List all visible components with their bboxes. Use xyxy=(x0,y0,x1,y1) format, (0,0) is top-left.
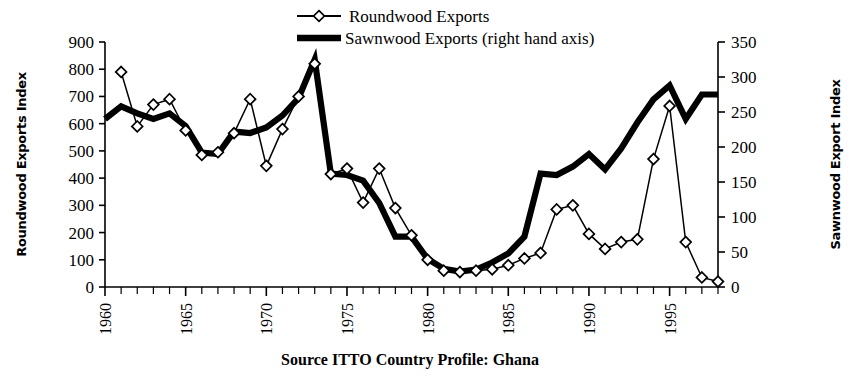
right-axis-tick-label: 100 xyxy=(731,208,757,227)
roundwood-data-point xyxy=(132,121,143,132)
left-axis-title: Roundwood Exports Index xyxy=(14,71,29,256)
left-axis-tick-label: 0 xyxy=(86,278,95,297)
x-axis-tick-label: 1985 xyxy=(500,303,517,335)
roundwood-data-point xyxy=(116,67,127,78)
roundwood-exports-line xyxy=(121,64,718,282)
left-axis-tick-label: 500 xyxy=(69,142,95,161)
roundwood-data-point xyxy=(648,154,659,165)
roundwood-data-point xyxy=(325,169,336,180)
x-axis-tick-label: 1965 xyxy=(178,303,195,335)
x-axis-ticks: 19601965197019751980198519901995 xyxy=(97,287,718,335)
right-axis-tick-label: 300 xyxy=(731,68,757,87)
roundwood-data-point xyxy=(277,124,288,135)
x-axis-tick-label: 1975 xyxy=(339,303,356,335)
roundwood-data-point xyxy=(358,197,369,208)
right-axis-tick-label: 50 xyxy=(731,243,748,262)
roundwood-data-point xyxy=(390,203,401,214)
legend: Roundwood ExportsSawnwood Exports (right… xyxy=(297,7,594,48)
legend-label-sawnwood: Sawnwood Exports (right hand axis) xyxy=(345,29,594,48)
x-axis-tick-label: 1990 xyxy=(581,303,598,335)
roundwood-data-point xyxy=(164,94,175,105)
roundwood-data-point xyxy=(632,234,643,245)
roundwood-data-point xyxy=(245,94,256,105)
roundwood-data-point xyxy=(713,276,724,287)
roundwood-data-point xyxy=(503,260,514,271)
right-axis-tick-label: 250 xyxy=(731,103,757,122)
roundwood-data-point xyxy=(680,237,691,248)
roundwood-data-point xyxy=(664,101,675,112)
right-axis-tick-label: 350 xyxy=(731,33,757,52)
right-axis-tick-label: 150 xyxy=(731,173,757,192)
x-axis-tick-label: 1970 xyxy=(258,303,275,335)
x-axis-tick-label: 1980 xyxy=(420,303,437,335)
right-axis-tick-label: 0 xyxy=(731,278,740,297)
chart-caption: Source ITTO Country Profile: Ghana xyxy=(281,351,539,369)
left-axis-tick-label: 200 xyxy=(69,224,95,243)
roundwood-data-point xyxy=(261,160,272,171)
chart-figure: 0100200300400500600700800900050100150200… xyxy=(0,0,866,380)
roundwood-data-point xyxy=(148,99,159,110)
left-axis-tick-label: 900 xyxy=(69,33,95,52)
right-axis-title: Sawnwood Export Index xyxy=(828,79,843,250)
roundwood-data-point xyxy=(374,163,385,174)
roundwood-data-point xyxy=(535,248,546,259)
x-axis-tick-label: 1960 xyxy=(97,303,114,335)
x-axis-tick-label: 1995 xyxy=(662,303,679,335)
legend-label-roundwood: Roundwood Exports xyxy=(349,7,489,26)
roundwood-data-point xyxy=(616,237,627,248)
exports-index-line-chart: 0100200300400500600700800900050100150200… xyxy=(0,0,866,380)
legend-roundwood-diamond-icon xyxy=(314,11,325,22)
left-axis-ticks: 0100200300400500600700800900 xyxy=(69,33,106,297)
left-axis-tick-label: 100 xyxy=(69,251,95,270)
right-axis-ticks: 050100150200250300350 xyxy=(718,33,757,297)
roundwood-data-point xyxy=(519,253,530,264)
left-axis-tick-label: 400 xyxy=(69,169,95,188)
roundwood-data-point xyxy=(567,200,578,211)
roundwood-data-point xyxy=(551,204,562,215)
left-axis-tick-label: 800 xyxy=(69,60,95,79)
left-axis-tick-label: 700 xyxy=(69,87,95,106)
left-axis-tick-label: 600 xyxy=(69,115,95,134)
left-axis-tick-label: 300 xyxy=(69,196,95,215)
roundwood-data-point xyxy=(696,272,707,283)
right-axis-tick-label: 200 xyxy=(731,138,757,157)
